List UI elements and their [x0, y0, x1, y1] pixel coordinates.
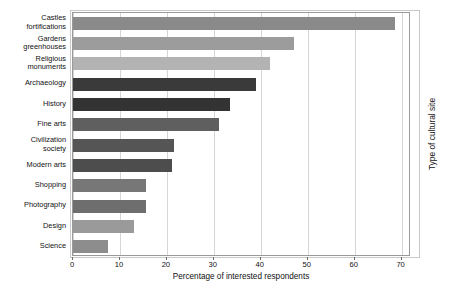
- category-label: Fine arts: [0, 120, 66, 128]
- bar-row: [73, 135, 174, 155]
- bar-series: [73, 13, 409, 255]
- category-label: Design: [0, 221, 66, 229]
- bar-gardens-greenhouses: [73, 37, 294, 50]
- bar-row: [73, 237, 108, 257]
- x-tick-label: 60: [349, 260, 357, 269]
- x-tick-label: 0: [70, 260, 74, 269]
- bar-science: [73, 240, 108, 253]
- bar-row: [73, 54, 270, 74]
- x-tick-label: 70: [396, 260, 404, 269]
- x-tick-label: 20: [162, 260, 170, 269]
- category-label: History: [0, 99, 66, 107]
- category-label: Modern arts: [0, 160, 66, 168]
- bar-castles-fortifications: [73, 17, 395, 30]
- bar-row: [73, 216, 134, 236]
- category-label: Castles fortifications: [0, 14, 66, 31]
- category-label: Civilization society: [0, 136, 66, 153]
- bar-archaeology: [73, 78, 256, 91]
- x-axis-ticks: 010203040506070: [72, 257, 410, 271]
- bar-fine-arts: [73, 118, 219, 131]
- plot-area: [72, 12, 410, 256]
- bar-photography: [73, 200, 146, 213]
- y-axis-title-text: Type of cultural site: [427, 98, 437, 170]
- x-tick-label: 50: [302, 260, 310, 269]
- category-label: Science: [0, 242, 66, 250]
- category-label: Gardens greenhouses: [0, 34, 66, 51]
- bar-shopping: [73, 179, 146, 192]
- bar-row: [73, 176, 146, 196]
- category-axis-labels: Castles fortificationsGardens greenhouse…: [0, 12, 69, 256]
- bar-design: [73, 220, 134, 233]
- bar-row: [73, 33, 294, 53]
- bar-row: [73, 13, 395, 33]
- x-tick-label: 40: [256, 260, 264, 269]
- x-tick-label: 30: [209, 260, 217, 269]
- bar-row: [73, 196, 146, 216]
- category-label: Religious monuments: [0, 54, 66, 71]
- category-label: Archaeology: [0, 79, 66, 87]
- bar-row: [73, 115, 219, 135]
- bar-row: [73, 94, 230, 114]
- bar-modern-arts: [73, 159, 172, 172]
- chart-figure: Castles fortificationsGardens greenhouse…: [0, 0, 453, 297]
- bar-religious-monuments: [73, 57, 270, 70]
- bar-history: [73, 98, 230, 111]
- bar-civilization-society: [73, 139, 174, 152]
- category-label: Photography: [0, 201, 66, 209]
- bar-row: [73, 155, 172, 175]
- x-axis-title: Percentage of interested respondents: [72, 272, 410, 281]
- x-tick-label: 10: [115, 260, 123, 269]
- category-label: Shopping: [0, 181, 66, 189]
- bar-row: [73, 74, 256, 94]
- y-axis-title: Type of cultural site: [412, 12, 452, 256]
